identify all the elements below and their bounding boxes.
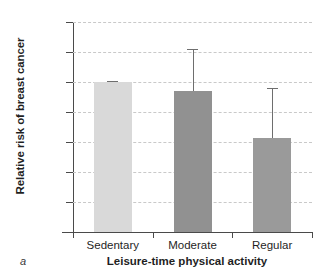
x-axis-tick [232,232,233,238]
plot-area [73,22,312,232]
y-axis-tick [66,22,73,23]
error-bar-stem-regular [272,88,273,138]
y-axis-tick [66,52,73,53]
x-axis-tick [73,232,74,238]
x-axis-title: Leisure-time physical activity [62,255,312,267]
bar-regular [253,138,291,233]
y-axis-tick [66,232,73,233]
x-axis-label-regular: Regular [217,239,326,251]
y-axis-tick [66,82,73,83]
gridline [73,22,312,23]
y-axis-tick [66,172,73,173]
error-bar-stem-moderate [193,49,194,91]
bar-sedentary [94,82,132,232]
error-bar-cap-moderate [187,49,198,50]
y-axis-tick [66,142,73,143]
error-bar-cap-regular [267,88,278,89]
y-axis-tick [66,112,73,113]
panel-label: a [20,255,26,267]
bar-chart-figure: Relative risk of breast cancer Leisure-t… [0,0,326,277]
x-axis-tick [312,232,313,238]
x-axis-line [62,232,312,233]
y-axis-title-text: Relative risk of breast cancer [14,38,26,195]
y-axis-tick [66,202,73,203]
error-bar-cap-sedentary [107,81,118,82]
bar-moderate [174,91,212,232]
y-axis-title: Relative risk of breast cancer [9,0,31,232]
x-axis-tick [153,232,154,238]
